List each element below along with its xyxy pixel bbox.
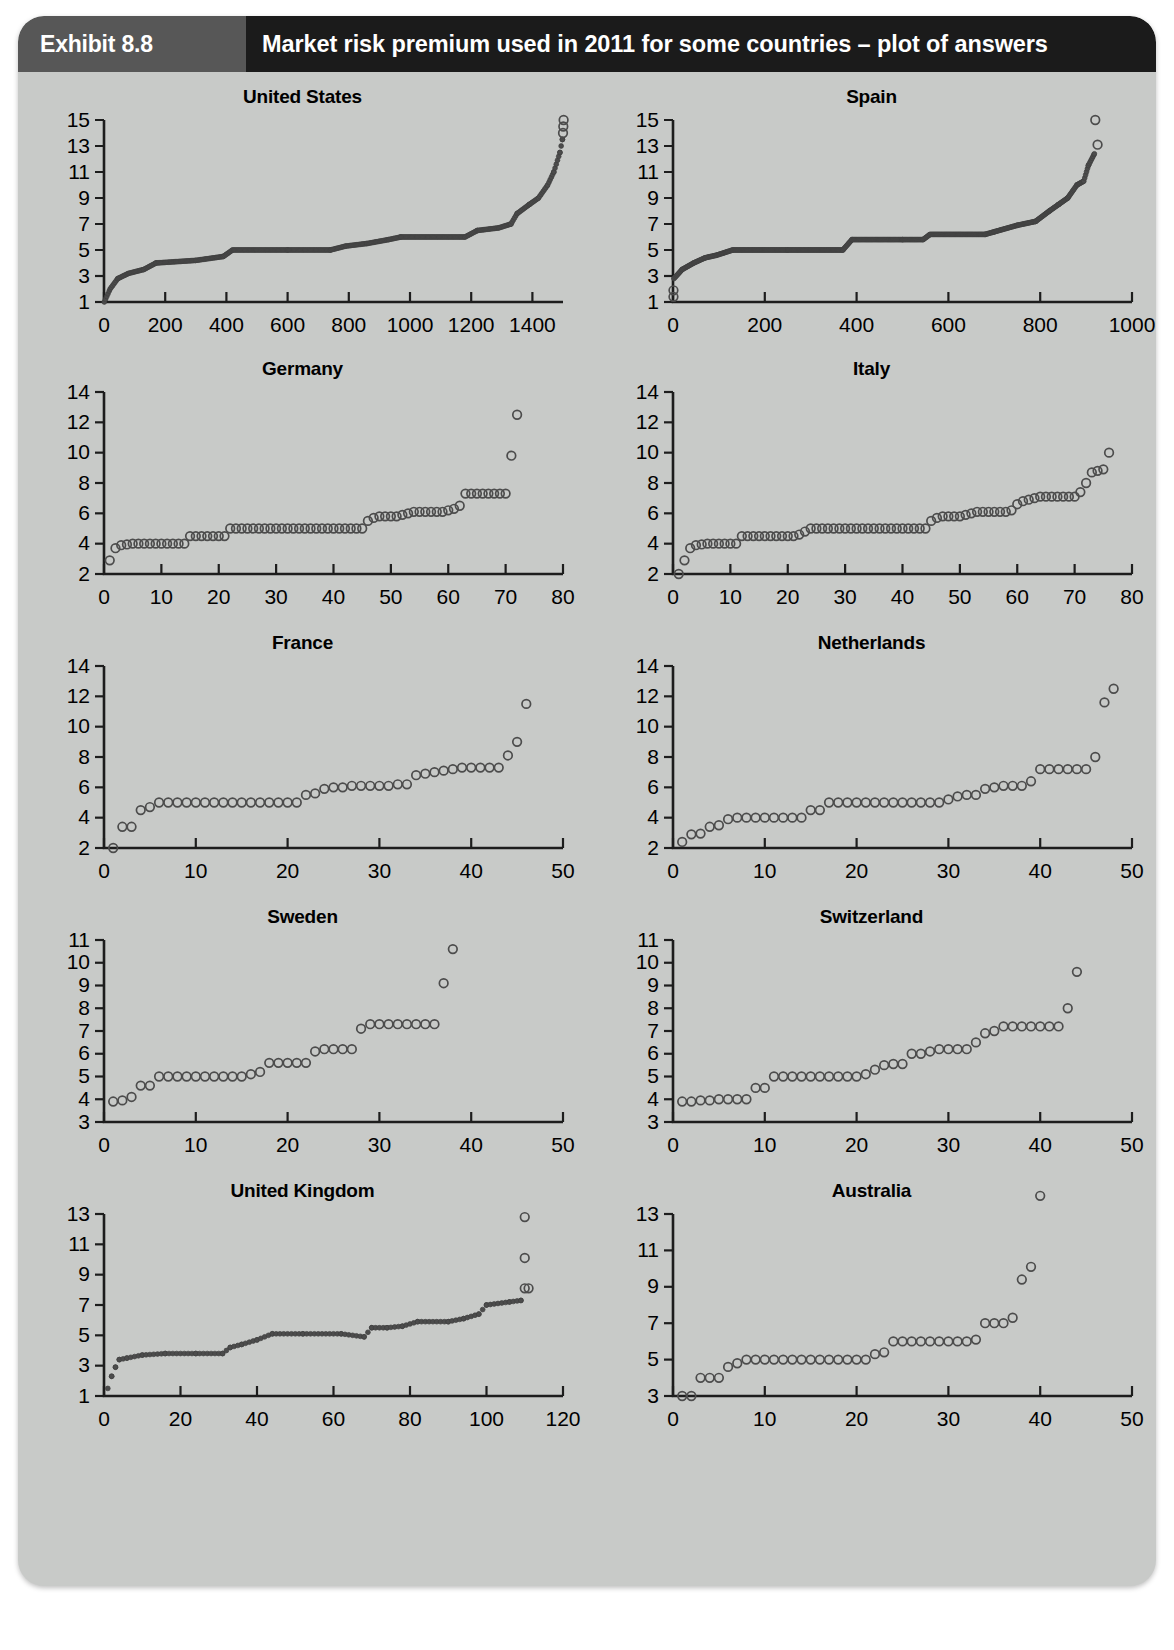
x-tick-label: 50	[551, 859, 574, 882]
x-tick-label: 40	[1029, 1133, 1052, 1156]
x-tick-label: 40	[460, 1133, 483, 1156]
chart-plot-area: 3579111301020304050	[587, 1172, 1156, 1444]
data-series	[678, 1192, 1045, 1401]
data-series	[105, 1213, 532, 1391]
y-tick-label: 8	[78, 471, 90, 494]
y-tick-label: 3	[647, 264, 659, 287]
y-tick-label: 1	[78, 290, 90, 313]
exhibit-title: Market risk premium used in 2011 for som…	[246, 16, 1156, 72]
y-tick-label: 6	[647, 1041, 659, 1064]
y-tick-label: 13	[67, 1202, 90, 1225]
y-tick-label: 4	[647, 805, 659, 828]
y-tick-label: 5	[78, 1323, 90, 1346]
y-tick-label: 3	[78, 1110, 90, 1133]
y-tick-label: 3	[78, 264, 90, 287]
x-tick-label: 1200	[448, 313, 495, 336]
chart-plot-area: 135791113020406080100120	[18, 1172, 587, 1444]
x-tick-label: 10	[184, 1133, 207, 1156]
x-tick-label: 40	[1029, 1407, 1052, 1430]
x-tick-label: 400	[209, 313, 244, 336]
y-tick-label: 7	[78, 212, 90, 235]
x-tick-label: 10	[150, 585, 173, 608]
chart-panel-australia: Australia3579111301020304050	[587, 1172, 1156, 1444]
x-tick-label: 30	[937, 1133, 960, 1156]
y-tick-label: 10	[67, 714, 90, 737]
chart-plot-area: 246810121401020304050607080	[18, 350, 587, 622]
x-tick-label: 200	[747, 313, 782, 336]
y-tick-label: 8	[78, 996, 90, 1019]
x-tick-label: 800	[331, 313, 366, 336]
data-series	[109, 700, 531, 853]
x-tick-label: 10	[184, 859, 207, 882]
x-tick-label: 20	[845, 1407, 868, 1430]
y-tick-label: 12	[636, 684, 659, 707]
y-tick-label: 5	[78, 1064, 90, 1087]
x-tick-label: 0	[667, 859, 679, 882]
x-tick-label: 50	[948, 585, 971, 608]
y-tick-label: 14	[636, 654, 660, 677]
y-tick-label: 12	[67, 684, 90, 707]
chart-panel-united-kingdom: United Kingdom135791113020406080100120	[18, 1172, 587, 1444]
x-tick-label: 0	[667, 313, 679, 336]
x-tick-label: 30	[937, 859, 960, 882]
x-tick-label: 60	[437, 585, 460, 608]
x-tick-label: 20	[845, 859, 868, 882]
x-tick-label: 30	[368, 1133, 391, 1156]
x-tick-label: 200	[148, 313, 183, 336]
x-tick-label: 70	[1063, 585, 1086, 608]
chart-plot-area: 246810121401020304050	[18, 624, 587, 896]
chart-panel-italy: Italy246810121401020304050607080	[587, 350, 1156, 622]
y-tick-label: 11	[637, 160, 659, 183]
y-tick-label: 11	[68, 160, 90, 183]
y-tick-label: 6	[78, 501, 90, 524]
chart-plot-area: 246810121401020304050	[587, 624, 1156, 896]
x-tick-label: 30	[833, 585, 856, 608]
y-tick-label: 7	[647, 1311, 659, 1334]
y-tick-label: 12	[636, 410, 659, 433]
y-tick-label: 9	[647, 186, 659, 209]
exhibit-header: Exhibit 8.8 Market risk premium used in …	[18, 16, 1156, 72]
x-tick-label: 40	[1029, 859, 1052, 882]
y-tick-label: 10	[67, 440, 90, 463]
y-tick-label: 13	[636, 1202, 659, 1225]
data-series	[669, 116, 1102, 301]
y-tick-label: 8	[647, 471, 659, 494]
y-tick-label: 6	[647, 501, 659, 524]
y-tick-label: 14	[67, 380, 91, 403]
x-tick-label: 60	[322, 1407, 345, 1430]
x-tick-label: 100	[469, 1407, 504, 1430]
y-tick-label: 9	[647, 973, 659, 996]
y-tick-label: 5	[647, 238, 659, 261]
x-tick-label: 20	[207, 585, 230, 608]
y-tick-label: 5	[78, 238, 90, 261]
y-tick-label: 6	[647, 775, 659, 798]
x-tick-label: 70	[494, 585, 517, 608]
x-tick-label: 400	[839, 313, 874, 336]
y-tick-label: 4	[78, 531, 90, 554]
y-tick-label: 7	[78, 1019, 90, 1042]
y-tick-label: 9	[78, 186, 90, 209]
x-tick-label: 40	[322, 585, 345, 608]
data-series	[105, 410, 521, 564]
x-tick-label: 10	[719, 585, 742, 608]
x-tick-label: 0	[98, 585, 110, 608]
y-tick-label: 14	[67, 654, 91, 677]
y-tick-label: 8	[78, 745, 90, 768]
exhibit-frame: Exhibit 8.8 Market risk premium used in …	[18, 16, 1156, 1586]
x-tick-label: 50	[379, 585, 402, 608]
y-tick-label: 9	[78, 1262, 90, 1285]
x-tick-label: 120	[545, 1407, 580, 1430]
data-series	[678, 968, 1081, 1106]
x-tick-label: 0	[667, 585, 679, 608]
x-tick-label: 0	[98, 313, 110, 336]
y-tick-label: 2	[78, 562, 90, 585]
x-tick-label: 50	[551, 1133, 574, 1156]
data-series	[102, 116, 568, 305]
y-tick-label: 11	[637, 1238, 659, 1261]
y-tick-label: 10	[636, 950, 659, 973]
y-tick-label: 14	[636, 380, 660, 403]
y-tick-label: 2	[647, 562, 659, 585]
y-tick-label: 13	[67, 134, 90, 157]
y-tick-label: 11	[637, 928, 659, 951]
x-tick-label: 80	[1120, 585, 1143, 608]
